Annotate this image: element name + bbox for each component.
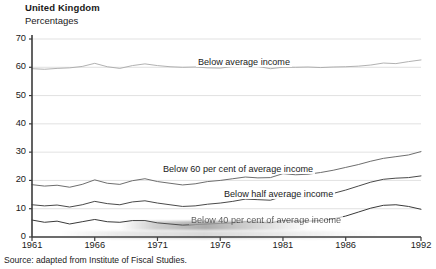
y-tick-label-20: 20 [4, 174, 26, 184]
x-tick-label-1992: 1992 [401, 240, 436, 250]
x-tick-label-1971: 1971 [137, 240, 177, 250]
series-label-below-half-average: Below half average income [222, 189, 335, 199]
y-tick-label-30: 30 [4, 146, 26, 156]
x-tick-label-1976: 1976 [200, 240, 240, 250]
series-label-below-average-income: Below average income [196, 57, 292, 67]
y-tick-label-70: 70 [4, 33, 26, 43]
y-tick-label-10: 10 [4, 203, 26, 213]
x-tick-label-1966: 1966 [75, 240, 115, 250]
source-note: Source: adapted from Institute of Fiscal… [4, 255, 187, 265]
y-tick-label-50: 50 [4, 90, 26, 100]
y-tick-label-60: 60 [4, 61, 26, 71]
series-label-below-60-percent: Below 60 per cent of average income [161, 164, 315, 174]
x-tick-label-1961: 1961 [12, 240, 52, 250]
x-tick-label-1986: 1986 [326, 240, 366, 250]
x-tick-label-1981: 1981 [263, 240, 303, 250]
y-tick-label-40: 40 [4, 118, 26, 128]
series-label-below-40-percent: Below 40 per cent of average income [189, 215, 343, 225]
